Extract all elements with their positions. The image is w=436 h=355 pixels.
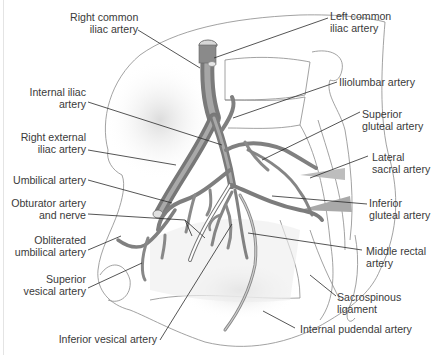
label-superior-vesical-artery: Superior vesical artery xyxy=(10,273,86,297)
label-right-common-iliac-artery: Right common iliac artery xyxy=(70,11,138,35)
label-umbilical-artery: Umbilical artery xyxy=(8,174,86,186)
label-inferior-vesical-artery: Inferior vesical artery xyxy=(40,333,157,345)
label-iliolumbar-artery: Iliolumbar artery xyxy=(339,76,415,88)
label-obturator-artery-and-nerve: Obturator artery and nerve xyxy=(10,197,86,221)
label-middle-rectal-artery: Middle rectal artery xyxy=(366,245,426,269)
muscle-shading xyxy=(150,219,300,302)
label-sacrospinous-ligament: Sacrospinous ligament xyxy=(337,291,401,315)
label-internal-iliac-artery: Internal iliac artery xyxy=(15,86,86,110)
label-right-external-iliac-artery: Right external iliac artery xyxy=(10,131,86,155)
label-left-common-iliac-artery: Left common iliac artery xyxy=(330,10,391,34)
label-obliterated-umbilical-artery: Obliterated umbilical artery xyxy=(10,234,86,258)
label-inferior-gluteal-artery: Inferior gluteal artery xyxy=(369,197,430,221)
label-internal-pudendal-artery: Internal pudendal artery xyxy=(300,323,412,335)
label-superior-gluteal-artery: Superior gluteal artery xyxy=(362,108,423,132)
pelvic-arteries-figure: Right common iliac artery Left common il… xyxy=(0,0,436,355)
piriformis-slip-1 xyxy=(300,168,345,180)
label-lateral-sacral-artery: Lateral sacral artery xyxy=(372,151,430,175)
